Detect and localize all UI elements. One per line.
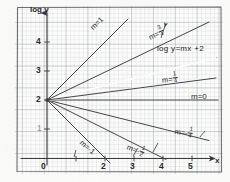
fraction-denominator: 4 [187, 133, 193, 140]
equation-label: log y=mx +2 [157, 45, 204, 53]
y-tick-1: 1 [37, 124, 42, 133]
graph-figure [0, 0, 230, 182]
y-tick-2: 2 [36, 95, 41, 104]
x-axis-title: x [215, 157, 219, 165]
graph-screenshot: log y x 4 3 2 1 0 2 3 4 5 log y=mx +2 m=… [0, 0, 230, 182]
y-axis-title: log y [30, 6, 49, 14]
x-tick-0: 0 [41, 162, 46, 171]
fraction-denominator: 4 [172, 78, 178, 84]
x-tick-4: 4 [159, 162, 164, 171]
pivot-point [45, 98, 50, 102]
slope-label-m-0: m=0 [191, 93, 207, 101]
y-tick-3: 3 [36, 66, 41, 75]
slope-label-m-1-4: m=14 [161, 71, 178, 85]
x-tick-5: 5 [188, 162, 193, 171]
y-tick-4: 4 [36, 37, 41, 46]
x-tick-3: 3 [130, 162, 135, 171]
x-tick-2: 2 [101, 162, 106, 171]
